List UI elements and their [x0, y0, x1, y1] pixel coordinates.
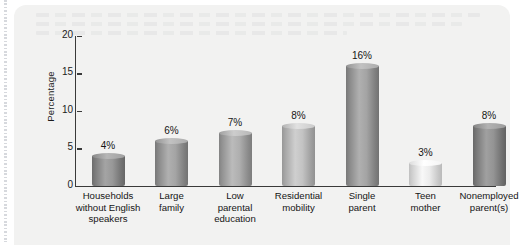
- bar-top-cap: [282, 123, 315, 129]
- category-label-line: speakers: [54, 213, 162, 225]
- bar-value-label: 8%: [269, 110, 329, 121]
- bar[interactable]: [219, 129, 252, 185]
- bar-value-label: 3%: [396, 147, 456, 158]
- category-label-line: education: [181, 213, 289, 225]
- y-axis-tick: 5: [40, 148, 82, 149]
- bar[interactable]: [409, 159, 442, 185]
- y-axis-tick-label: 10: [39, 104, 73, 115]
- bar[interactable]: [473, 122, 506, 186]
- y-axis-tick: 10: [40, 111, 82, 112]
- bar-body: [92, 156, 125, 186]
- bar[interactable]: [346, 62, 379, 186]
- y-axis-tick-label: 15: [39, 66, 73, 77]
- y-axis-title: Percentage: [45, 42, 56, 152]
- y-axis-tick-mark: [77, 36, 82, 37]
- x-axis-line: [75, 186, 496, 187]
- bar-body: [219, 133, 252, 185]
- bar[interactable]: [155, 137, 188, 186]
- bar-top-cap: [346, 63, 379, 69]
- bar-body: [473, 126, 506, 186]
- bar-value-label: 7%: [205, 117, 265, 128]
- bar-body: [346, 66, 379, 186]
- bar-top-cap: [92, 153, 125, 159]
- bar-value-label: 4%: [78, 140, 138, 151]
- y-axis-tick-label: 20: [39, 29, 73, 40]
- bar[interactable]: [92, 152, 125, 186]
- category-label: Nonemployedparent(s): [435, 190, 522, 213]
- scan-edge-artifact: [4, 0, 7, 242]
- y-axis-tick: 20: [40, 36, 82, 37]
- bar-value-label: 6%: [142, 125, 202, 136]
- y-axis-tick-mark: [77, 186, 82, 187]
- bar[interactable]: [282, 122, 315, 186]
- y-axis-tick-mark: [77, 111, 82, 112]
- bar-value-label: 16%: [332, 50, 392, 61]
- y-axis-tick-mark: [77, 73, 82, 74]
- chart-panel: Percentage 05101520 4%6%7%8%16%3%8% Hous…: [14, 5, 510, 245]
- y-axis-tick: 15: [40, 73, 82, 74]
- bar-top-cap: [473, 123, 506, 129]
- bar-body: [282, 126, 315, 186]
- bar-body: [155, 141, 188, 186]
- bar-value-label: 8%: [459, 110, 519, 121]
- y-axis-tick-label: 5: [39, 141, 73, 152]
- bar-chart-plot: Percentage 05101520 4%6%7%8%16%3%8% Hous…: [14, 5, 510, 245]
- y-axis-tick-label: 0: [39, 179, 73, 190]
- category-label-line: parent(s): [435, 202, 522, 214]
- bar-body: [409, 163, 442, 185]
- category-label-line: Nonemployed: [435, 190, 522, 202]
- y-axis-tick: 0: [40, 186, 82, 187]
- bar-top-cap: [155, 138, 188, 144]
